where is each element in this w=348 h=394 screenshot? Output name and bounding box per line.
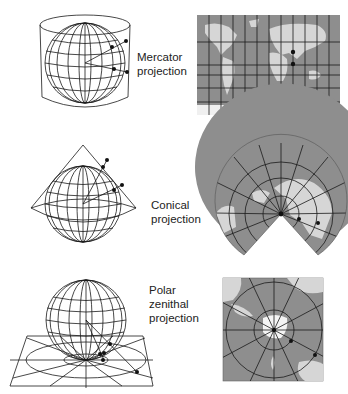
- conical-panel: Conical projection: [0, 130, 348, 260]
- conical-label: Conical projection: [151, 198, 201, 226]
- polar-zenithal-label: Polar zenithal projection: [149, 283, 199, 325]
- polar-zenithal-map: [223, 278, 323, 381]
- mercator-label: Mercator projection: [137, 50, 187, 78]
- conical-fan-map-grid: [214, 143, 344, 255]
- polar-zenithal-panel: Polar zenithal projection: [0, 260, 348, 394]
- plane-globe-diagram: [5, 268, 155, 393]
- cone-globe-diagram: [28, 140, 158, 260]
